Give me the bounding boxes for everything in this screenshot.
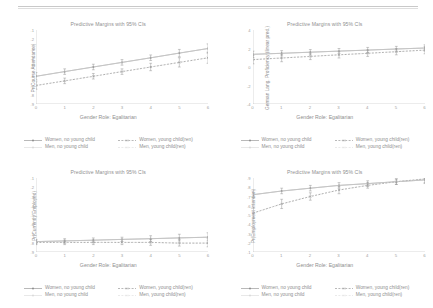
x-tick-label: 1	[63, 105, 65, 110]
y-tick-label: .8	[247, 185, 250, 190]
x-axis-label: Gender Role: Egalitarian	[217, 262, 433, 268]
x-tick-label: 3	[121, 253, 123, 258]
legend: Women, no young childWomen, young child(…	[24, 286, 209, 298]
y-tick-label: .3	[31, 194, 34, 199]
x-tick-label: 3	[121, 105, 123, 110]
x-tick-label: 6	[423, 253, 425, 258]
x-axis-ticks: 0123456	[253, 253, 425, 261]
plot-area	[253, 30, 425, 104]
legend-item: Women, young child(ren)	[335, 286, 425, 291]
x-tick-label: 6	[207, 105, 209, 110]
legend-key-icon	[241, 145, 259, 150]
y-tick-label: .7	[31, 231, 34, 236]
y-tick-label: .5	[31, 65, 34, 70]
legend-item: Women, young child(ren)	[335, 138, 425, 143]
x-tick-label: 2	[309, 105, 311, 110]
legend-item: Men, young child(ren)	[118, 293, 208, 298]
page-top-rule	[18, 6, 418, 7]
x-tick-label: 4	[366, 253, 368, 258]
x-tick-label: 0	[251, 105, 253, 110]
legend-item: Men, no young child	[241, 293, 331, 298]
legend-item-label: Men, young child(ren)	[356, 293, 402, 298]
legend-key-icon	[335, 293, 353, 298]
x-tick-label: 5	[395, 105, 397, 110]
y-axis-label-wrap: Pr(Currently Employed)	[8, 178, 19, 254]
legend-item: Men, young child(ren)	[118, 145, 208, 150]
legend-item-label: Men, young child(ren)	[356, 145, 402, 150]
legend-key-icon	[241, 286, 259, 291]
plot-area	[36, 178, 208, 252]
y-axis-ticks: .9.8.7.6.5.4.3.2.1	[236, 178, 252, 252]
legend-item-label: Women, no young child	[45, 286, 95, 291]
x-tick-label: 3	[337, 105, 339, 110]
plot-svg	[36, 178, 208, 252]
legend-key-icon	[24, 145, 42, 150]
panel-title: Predictive Margins with 95% CIs	[0, 21, 217, 27]
plot-area	[36, 30, 208, 104]
page-top-rule-secondary	[18, 8, 418, 9]
legend-item-label: Women, no young child	[45, 138, 95, 143]
x-tick-label: 5	[395, 253, 397, 258]
plot-svg	[253, 178, 425, 252]
legend-item: Women, young child(ren)	[118, 138, 208, 143]
legend-item-label: Women, young child(ren)	[139, 138, 193, 143]
y-axis-label-wrap: Pr(Course Attendance)	[8, 30, 19, 106]
y-axis-label-wrap: Pr(Employment Intention)	[225, 178, 236, 254]
plot-svg	[253, 30, 425, 104]
y-tick-label: 4	[248, 28, 250, 33]
x-axis-label: Gender Role: Egalitarian	[0, 262, 217, 268]
x-tick-label: 2	[92, 105, 94, 110]
x-tick-label: 0	[35, 105, 37, 110]
y-tick-label: .6	[31, 222, 34, 227]
legend-key-icon	[24, 293, 42, 298]
x-tick-label: 1	[280, 105, 282, 110]
legend-item: Women, young child(ren)	[118, 286, 208, 291]
panel-german-proficiency: Predictive Margins with 95% CIs German L…	[217, 12, 433, 160]
x-tick-label: 5	[178, 253, 180, 258]
legend-item: Men, no young child	[24, 145, 114, 150]
y-tick-label: .4	[31, 55, 34, 60]
legend-item-label: Men, no young child	[45, 293, 88, 298]
y-tick-label: .1	[247, 250, 250, 255]
y-tick-label: .1	[31, 176, 34, 181]
y-tick-label: 2	[248, 46, 250, 51]
legend-key-icon	[24, 138, 42, 143]
x-axis-label: Gender Role: Egalitarian	[0, 114, 217, 120]
legend-item-label: Men, young child(ren)	[139, 145, 185, 150]
x-tick-label: 0	[251, 253, 253, 258]
legend-key-icon	[241, 293, 259, 298]
x-tick-label: 6	[423, 105, 425, 110]
x-tick-label: 2	[309, 253, 311, 258]
legend: Women, no young childWomen, young child(…	[241, 286, 426, 298]
y-tick-label: .6	[247, 203, 250, 208]
legend-item: Men, young child(ren)	[335, 145, 425, 150]
x-tick-label: 4	[149, 105, 151, 110]
legend-item-label: Women, no young child	[262, 286, 312, 291]
x-tick-label: 4	[366, 105, 368, 110]
y-tick-label: .6	[31, 74, 34, 79]
legend-item: Men, young child(ren)	[335, 293, 425, 298]
x-tick-label: 5	[178, 105, 180, 110]
plot-area	[253, 178, 425, 252]
y-tick-label: .2	[31, 37, 34, 42]
y-tick-label: .5	[247, 213, 250, 218]
panel-title: Predictive Margins with 95% CIs	[217, 21, 433, 27]
y-tick-label: .2	[247, 240, 250, 245]
panel-title: Predictive Margins with 95% CIs	[0, 169, 217, 175]
y-axis-label-wrap: German Lang. Proficiency (linear pred.)	[225, 30, 236, 106]
legend-key-icon	[118, 145, 136, 150]
plot-svg	[36, 30, 208, 104]
y-tick-label: .8	[31, 240, 34, 245]
y-tick-label: .3	[247, 231, 250, 236]
legend-key-icon	[118, 286, 136, 291]
legend: Women, no young childWomen, young child(…	[241, 138, 426, 150]
legend-item: Women, no young child	[24, 138, 114, 143]
legend-item-label: Men, no young child	[262, 145, 305, 150]
x-axis-ticks: 0123456	[36, 105, 208, 113]
legend-key-icon	[335, 138, 353, 143]
y-axis-ticks: .1.2.3.4.5.6.7.8.9	[19, 30, 35, 104]
legend-item-label: Women, young child(ren)	[139, 286, 193, 291]
y-tick-label: .2	[31, 185, 34, 190]
x-tick-label: 4	[149, 253, 151, 258]
y-axis-ticks: 420-2-4	[236, 30, 252, 104]
